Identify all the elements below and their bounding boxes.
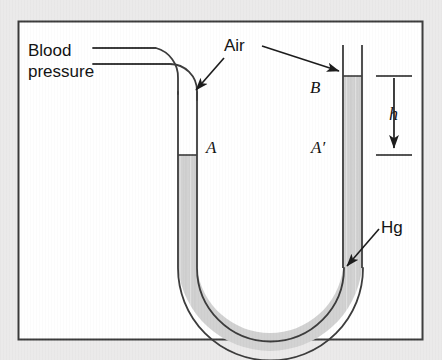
figure-container: Blood pressure Air Hg A A′ B h [0, 0, 442, 360]
label-blood-pressure-line1: Blood [28, 40, 94, 61]
label-blood-pressure: Blood pressure [28, 40, 94, 82]
label-point-a: A [206, 139, 216, 156]
label-blood-pressure-line2: pressure [28, 61, 94, 82]
label-height-h: h [389, 105, 398, 123]
label-point-a-prime: A′ [311, 139, 325, 156]
label-mercury: Hg [381, 219, 403, 236]
label-point-b: B [310, 79, 320, 96]
label-air: Air [224, 37, 245, 54]
